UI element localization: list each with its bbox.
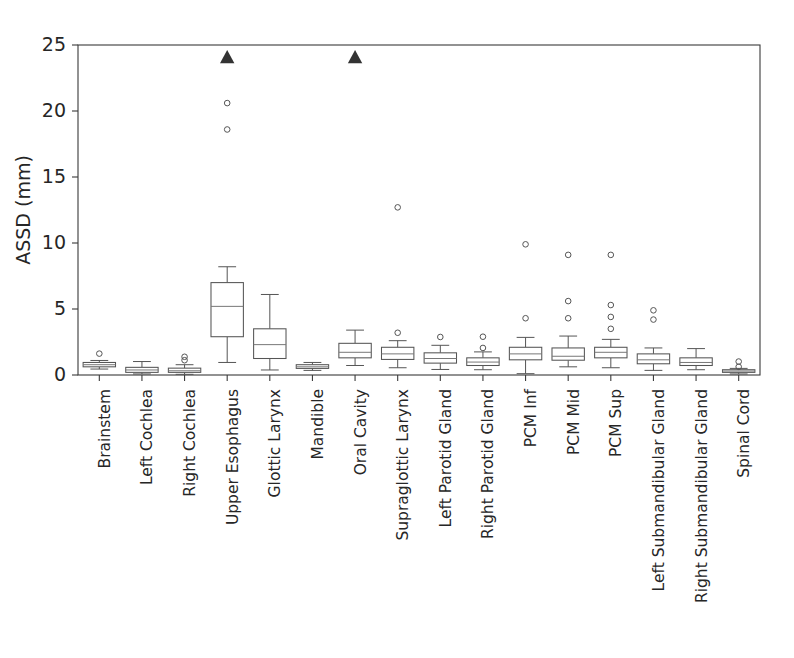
- x-tick-label-pcm-sup: PCM Sup: [607, 389, 625, 457]
- box-body: [168, 368, 200, 372]
- x-tick-label-glottic-larynx: Glottic Larynx: [266, 389, 284, 497]
- chart-background: [0, 0, 794, 658]
- x-tick-label-supraglottic-larynx: Supraglottic Larynx: [394, 389, 412, 541]
- box-body: [339, 343, 371, 358]
- y-tick-label-25: 25: [42, 33, 66, 55]
- x-tick-label-left-submandibular-gland: Left Submandibular Gland: [650, 389, 668, 591]
- box-body: [424, 353, 456, 363]
- box-body: [211, 283, 243, 337]
- x-tick-label-mandible: Mandible: [309, 389, 327, 460]
- x-tick-label-brainstem: Brainstem: [96, 389, 114, 468]
- x-tick-label-right-submandibular-gland: Right Submandibular Gland: [693, 389, 711, 603]
- box-body: [680, 358, 712, 366]
- x-tick-label-left-cochlea: Left Cochlea: [138, 389, 156, 485]
- axis-labels: ASSD (mm): [12, 155, 34, 265]
- x-tick-label-pcm-inf: PCM Inf: [522, 388, 540, 447]
- box-body: [254, 329, 286, 359]
- y-tick-label-20: 20: [42, 99, 66, 121]
- y-tick-label-15: 15: [42, 165, 66, 187]
- y-tick-label-0: 0: [54, 363, 66, 385]
- x-tick-label-spinal-cord: Spinal Cord: [735, 389, 753, 478]
- box-body: [552, 348, 584, 360]
- y-tick-label-5: 5: [54, 297, 66, 319]
- x-tick-label-left-parotid-gland: Left Parotid Gland: [437, 389, 455, 527]
- x-tick-label-oral-cavity: Oral Cavity: [352, 389, 370, 475]
- box-body: [637, 354, 669, 364]
- x-tick-label-right-parotid-gland: Right Parotid Gland: [479, 389, 497, 539]
- y-axis-title: ASSD (mm): [12, 155, 34, 265]
- y-tick-label-10: 10: [42, 231, 66, 253]
- x-tick-label-pcm-mid: PCM Mid: [565, 389, 583, 455]
- x-tick-label-upper-esophagus: Upper Esophagus: [224, 389, 242, 525]
- box-body: [381, 347, 413, 359]
- boxplot-chart: 0510152025 BrainstemLeft CochleaRight Co…: [0, 0, 794, 658]
- figure-container: 0510152025 BrainstemLeft CochleaRight Co…: [0, 0, 794, 658]
- x-tick-label-right-cochlea: Right Cochlea: [181, 389, 199, 497]
